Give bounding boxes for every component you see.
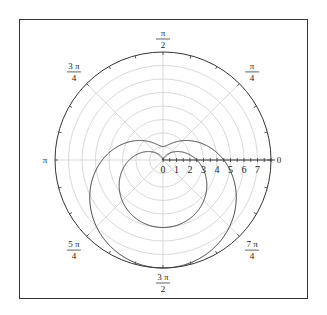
angle-label-numerator: 3 π (157, 272, 169, 282)
radial-tick-label: 3 (201, 164, 206, 175)
ring-tick (237, 234, 239, 236)
angle-label-numerator: 5 π (68, 239, 80, 249)
radial-axis (163, 158, 275, 162)
angle-label-denominator: 4 (72, 251, 77, 261)
angle-label: 3 π4 (67, 61, 81, 83)
angle-label: π2 (156, 28, 170, 50)
angle-label: 0 (277, 155, 282, 165)
angle-label-denominator: 4 (72, 73, 77, 83)
ring-tick (59, 187, 62, 188)
polar-plot: 01234567 0π4π23 π4π5 π43 π27 π4 (0, 0, 327, 315)
angle-label-text: 0 (277, 155, 282, 165)
ring-tick (69, 106, 72, 108)
radial-tick-labels: 01234567 (161, 164, 261, 175)
grid-ray (87, 84, 163, 160)
ring-tick (216, 251, 218, 254)
radial-tick-label: 2 (188, 164, 193, 175)
ring-tick (69, 213, 72, 215)
radial-tick-label: 1 (174, 164, 179, 175)
grid-ray (87, 160, 163, 236)
angle-label-numerator: π (161, 28, 166, 38)
ring-tick (254, 106, 257, 108)
radial-tick-label: 7 (255, 164, 260, 175)
angle-label-text: π (43, 155, 48, 165)
angle-label-denominator: 2 (161, 284, 166, 294)
ring-tick (135, 56, 136, 59)
radial-tick-label: 6 (242, 164, 247, 175)
ring-tick (109, 66, 111, 69)
angle-label-numerator: π (250, 61, 255, 71)
ring-tick (264, 132, 267, 133)
angle-label-denominator: 4 (250, 73, 255, 83)
ring-tick (264, 187, 267, 188)
angle-label: 3 π2 (156, 272, 170, 294)
angle-label: 5 π4 (67, 239, 81, 261)
angle-label-denominator: 2 (161, 40, 166, 50)
ring-tick (109, 251, 111, 254)
ring-tick (254, 213, 257, 215)
angle-label: 7 π4 (245, 239, 259, 261)
radial-tick-label: 0 (161, 164, 166, 175)
angle-label-numerator: 7 π (246, 239, 258, 249)
radial-tick-label: 4 (215, 164, 220, 175)
ring-tick (87, 84, 89, 86)
angle-label-numerator: 3 π (68, 61, 80, 71)
angle-label: π (43, 155, 48, 165)
angle-label: π4 (245, 61, 259, 83)
ring-tick (190, 56, 191, 59)
radial-tick-label: 5 (228, 164, 233, 175)
ring-tick (216, 66, 218, 69)
angle-label-denominator: 4 (250, 251, 255, 261)
ring-tick (87, 234, 89, 236)
ring-tick (59, 132, 62, 133)
grid-ray (163, 84, 239, 160)
ring-tick (237, 84, 239, 86)
